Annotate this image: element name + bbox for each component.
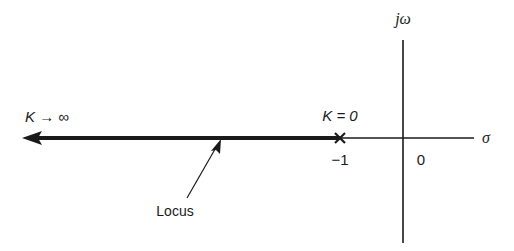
real-axis-label: σ: [482, 129, 491, 146]
pole-location-label: −1: [331, 151, 348, 168]
root-locus-diagram: jω σ 0 −1 K = 0 K → ∞ Locus: [0, 0, 514, 251]
locus-direction-label: K → ∞: [25, 108, 69, 125]
annotation-arrowhead-icon: [211, 139, 221, 154]
locus-annotation-label: Locus: [156, 203, 193, 219]
origin-label: 0: [417, 151, 425, 168]
pole-gain-label: K = 0: [322, 107, 358, 124]
diagram-svg: jω σ 0 −1 K = 0 K → ∞ Locus: [0, 0, 514, 251]
locus-annotation-arrow: [187, 144, 218, 198]
imag-axis-label: jω: [393, 10, 411, 28]
